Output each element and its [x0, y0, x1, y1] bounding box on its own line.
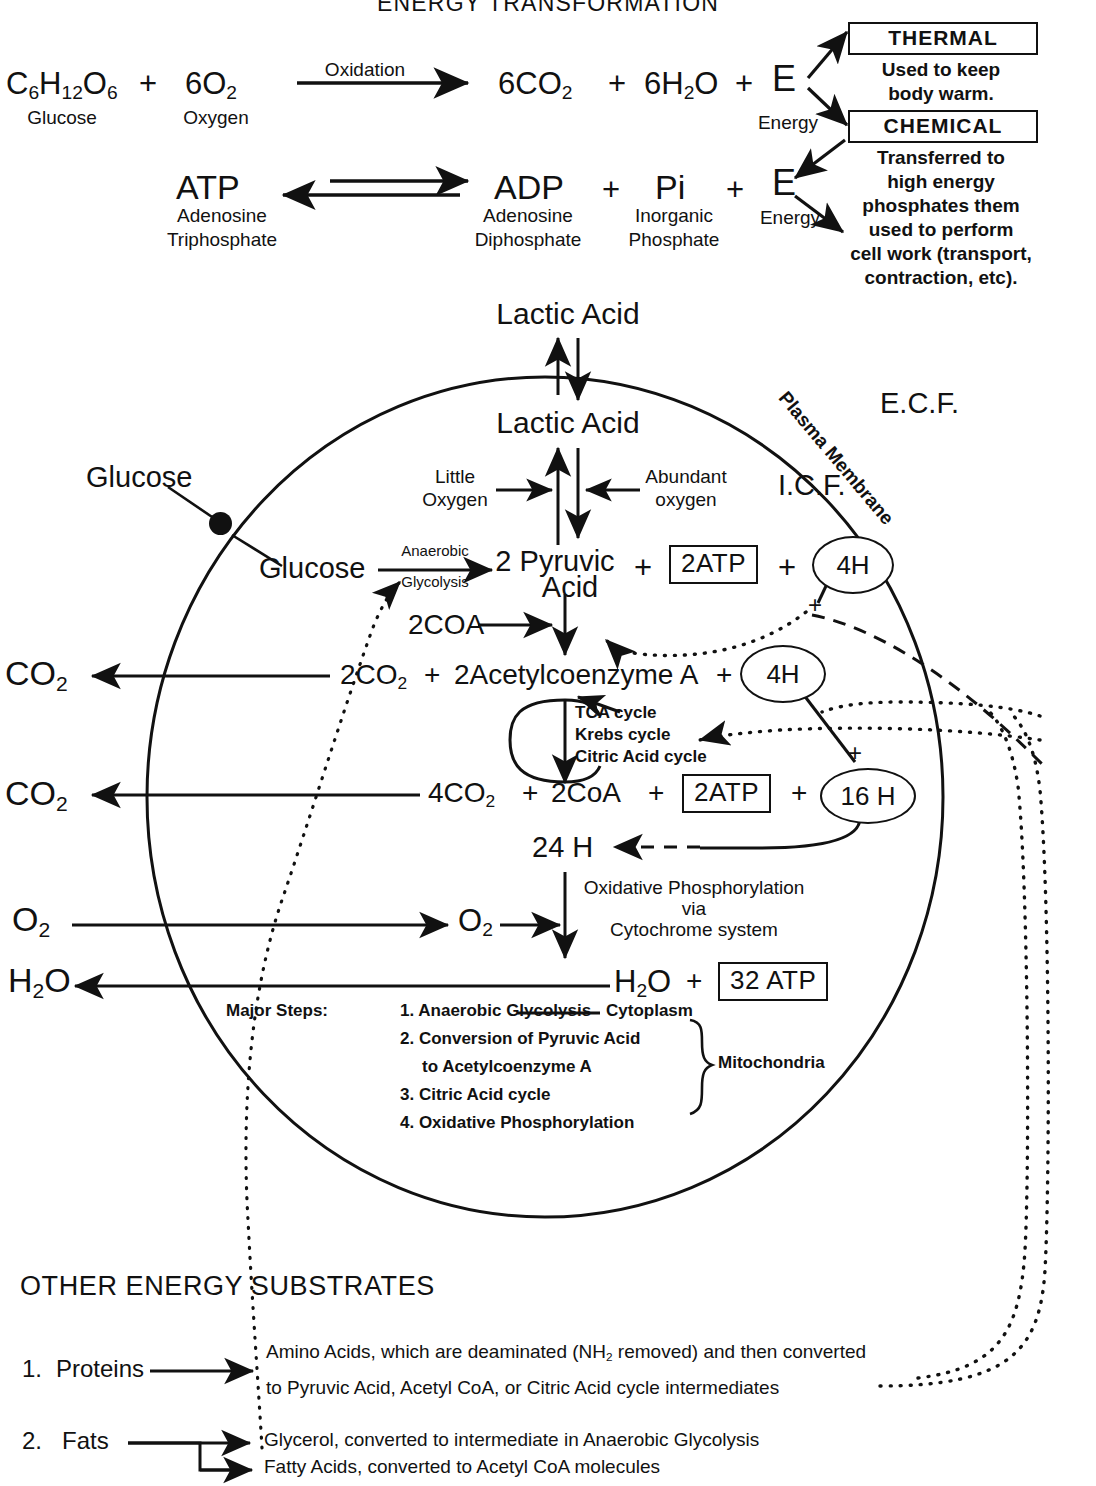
- arrow-e-to-thermal: [808, 32, 847, 78]
- little-oxygen-line2: Oxygen: [422, 490, 487, 510]
- thermal-box: THERMAL: [848, 22, 1038, 55]
- oxphos-line2: via: [682, 899, 706, 919]
- diagram-canvas: ENERGY TRANSFORMATION C6H12O6 Glucose + …: [0, 0, 1096, 1486]
- oxphos-line3: Cytochrome system: [610, 920, 778, 940]
- atp-box-32: 32 ATP: [718, 962, 828, 1001]
- plus-h2o-energy: +: [735, 68, 753, 101]
- location-cytoplasm: Cytoplasm: [606, 1002, 693, 1020]
- substrate-1-desc-line2: to Pyruvic Acid, Acetyl CoA, or Citric A…: [266, 1378, 779, 1398]
- curve-16h-to-24h: [700, 818, 860, 848]
- oval-16h: 16 H: [820, 768, 916, 824]
- major-steps-item-3: 3. Citric Acid cycle: [400, 1086, 551, 1104]
- chemical-desc-line1: Transferred to: [877, 148, 1005, 168]
- caption-atp-line1: Adenosine: [177, 206, 267, 226]
- co2-product-1: 2CO2: [340, 660, 407, 692]
- caption-pi-line2: Phosphate: [629, 230, 720, 250]
- thermal-desc-line2: body warm.: [888, 84, 994, 104]
- plus-pyruvate-atp: +: [634, 552, 652, 585]
- symbol-energy-top: E: [772, 60, 796, 98]
- glucose-icf: Glucose: [259, 553, 365, 583]
- chemical-desc-line3: phosphates them: [862, 196, 1019, 216]
- major-steps-item-1: 1. Anaerobic Glycolysis: [400, 1002, 591, 1020]
- brace-mitochondria: [690, 1020, 712, 1114]
- tca-cycle-line1: TCA cycle: [575, 704, 657, 722]
- caption-adp-line2: Diphosphate: [475, 230, 582, 250]
- caption-glucose: Glucose: [27, 108, 97, 128]
- formula-glucose: C6H12O6: [6, 68, 118, 104]
- caption-oxygen: Oxygen: [183, 108, 248, 128]
- caption-energy-top: Energy: [758, 113, 818, 133]
- pyruvic-acid-line2: Acid: [542, 572, 598, 602]
- plus-co2-h2o: +: [608, 68, 626, 101]
- caption-atp-line2: Triphosphate: [167, 230, 277, 250]
- caption-energy-bottom: Energy: [760, 208, 820, 228]
- line-4h-mid-to-plus: [800, 690, 855, 762]
- chemical-desc-line4: used to perform: [869, 220, 1014, 240]
- co2-ecf-2: CO2: [5, 776, 68, 815]
- co2-product-2: 4CO2: [428, 778, 495, 810]
- plus-co2-acetylcoa: +: [424, 660, 440, 689]
- abundant-oxygen-line2: oxygen: [655, 490, 716, 510]
- substrate-1-name: Proteins: [56, 1356, 144, 1381]
- substrate-2-desc-line1: Glycerol, converted to intermediate in A…: [264, 1430, 759, 1450]
- o2-icf: O2: [458, 905, 493, 941]
- chemical-box: CHEMICAL: [848, 110, 1038, 143]
- label-acetyl-coenzyme-a: 2Acetylcoenzyme A: [454, 660, 698, 689]
- formula-h2o-product: 6H2O: [644, 68, 718, 104]
- plus-h2o-atp: +: [686, 966, 702, 995]
- plus-adp-pi: +: [602, 174, 620, 207]
- plus-atp-16h: +: [791, 778, 807, 807]
- atp-box-glycolysis: 2ATP: [669, 545, 758, 584]
- substrate-2-name: Fats: [62, 1428, 109, 1453]
- plus-atp-4h: +: [778, 552, 796, 585]
- tca-cycle-line2: Krebs cycle: [575, 726, 670, 744]
- dotted-right-loop-to-krebs: [700, 728, 1040, 740]
- label-adp: ADP: [494, 170, 564, 206]
- label-oxidation: Oxidation: [325, 60, 405, 80]
- other-substrates-heading: OTHER ENERGY SUBSTRATES: [20, 1272, 435, 1300]
- major-steps-item-2: 2. Conversion of Pyruvic Acid: [400, 1030, 640, 1048]
- tca-cycle-loop: [510, 700, 565, 782]
- plus-coa-atp: +: [648, 778, 664, 807]
- oxphos-line1: Oxidative Phosphorylation: [584, 878, 805, 898]
- substrate-1-number: 1.: [22, 1356, 42, 1381]
- chemical-desc-line2: high energy: [887, 172, 995, 192]
- label-pi: Pi: [655, 170, 685, 206]
- major-steps-item-4: 4. Oxidative Phosphorylation: [400, 1114, 634, 1132]
- chemical-desc-line5: cell work (transport,: [850, 244, 1032, 264]
- label-atp: ATP: [176, 170, 240, 206]
- plus-4h-top-junction: +: [808, 592, 822, 617]
- caption-adp-line1: Adenosine: [483, 206, 573, 226]
- icf-label: I.C.F.: [778, 470, 846, 500]
- location-mitochondria: Mitochondria: [718, 1054, 825, 1072]
- plus-acetylcoa-4h: +: [716, 660, 732, 689]
- h2o-ecf: H2O: [8, 963, 71, 1002]
- label-2coa-in: 2COA: [408, 610, 484, 639]
- glucose-ecf: Glucose: [86, 462, 192, 492]
- co2-ecf-1: CO2: [5, 656, 68, 695]
- label-24h: 24 H: [532, 832, 593, 862]
- membrane-transport-pore: [209, 512, 232, 535]
- abundant-oxygen-line1: Abundant: [645, 467, 726, 487]
- chemical-desc-line6: contraction, etc).: [864, 268, 1017, 288]
- substrate-2-number: 2.: [22, 1428, 42, 1453]
- atp-box-krebs: 2ATP: [682, 774, 771, 813]
- h2o-icf: H2O: [614, 966, 671, 1002]
- arrow-chemical-to-energy: [795, 140, 845, 178]
- tca-cycle-line3: Citric Acid cycle: [575, 748, 707, 766]
- substrate-2-desc-line2: Fatty Acids, converted to Acetyl CoA mol…: [264, 1457, 660, 1477]
- dotted-right-loop-upper: [822, 702, 1040, 716]
- plus-co2-coa: +: [522, 778, 538, 807]
- symbol-energy-bottom: E: [772, 164, 796, 202]
- plus-pi-energy: +: [726, 174, 744, 207]
- caption-pi-line1: Inorganic: [635, 206, 713, 226]
- label-2coa-out: 2CoA: [551, 778, 621, 807]
- plus-16h-junction: +: [848, 740, 862, 765]
- plasma-membrane-label: Plasma Membrane: [775, 388, 898, 529]
- ecf-label: E.C.F.: [880, 388, 959, 418]
- glycolysis-label-line2: Glycolysis: [401, 574, 469, 590]
- formula-oxygen: 6O2: [185, 68, 237, 104]
- little-oxygen-line1: Little: [435, 467, 475, 487]
- major-steps-item-2b: to Acetylcoenzyme A: [422, 1058, 592, 1076]
- lactic-acid-ecf: Lactic Acid: [496, 298, 639, 330]
